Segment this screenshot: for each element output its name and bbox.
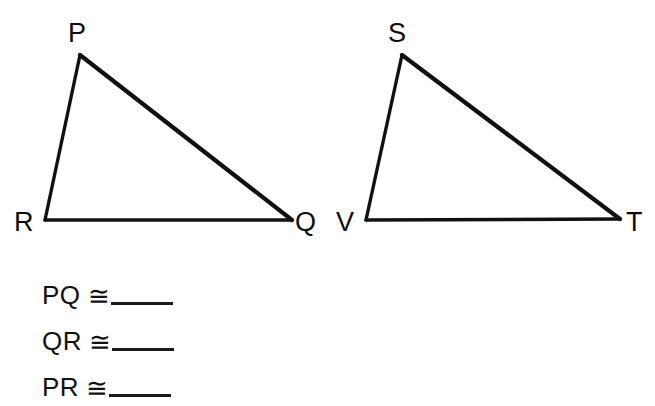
vertex-label-r: R [14, 209, 34, 236]
vertex-label-p: P [68, 20, 86, 47]
vertex-label-q: Q [295, 209, 316, 236]
worksheet-page: P Q R S T V PQ ≅ QR ≅ PR ≅ [0, 0, 655, 406]
edge-st [402, 55, 620, 219]
statement-row-pq: PQ ≅ [42, 262, 302, 308]
triangle-pqr [45, 55, 292, 220]
vertex-label-v: V [336, 209, 354, 236]
congruent-icon: ≅ [88, 283, 110, 309]
answer-blank-qr[interactable] [112, 347, 174, 351]
statement-row-pr: PR ≅ [42, 354, 302, 400]
edge-pq [80, 55, 292, 220]
vertex-label-s: S [388, 20, 406, 47]
statement-row-qr: QR ≅ [42, 308, 302, 354]
edge-tv [366, 219, 620, 220]
answer-blank-pr[interactable] [109, 393, 171, 397]
congruence-statements-list: PQ ≅ QR ≅ PR ≅ [42, 262, 302, 400]
answer-blank-pq[interactable] [111, 301, 173, 305]
edge-pr [45, 55, 80, 220]
vertex-label-t: T [626, 209, 643, 236]
segment-label-qr: QR [42, 328, 82, 354]
segment-label-pq: PQ [42, 282, 81, 308]
triangle-svt [366, 55, 620, 220]
congruent-icon: ≅ [86, 375, 108, 401]
edge-sv [366, 55, 402, 220]
congruent-icon: ≅ [89, 329, 111, 355]
segment-label-pr: PR [42, 374, 79, 400]
